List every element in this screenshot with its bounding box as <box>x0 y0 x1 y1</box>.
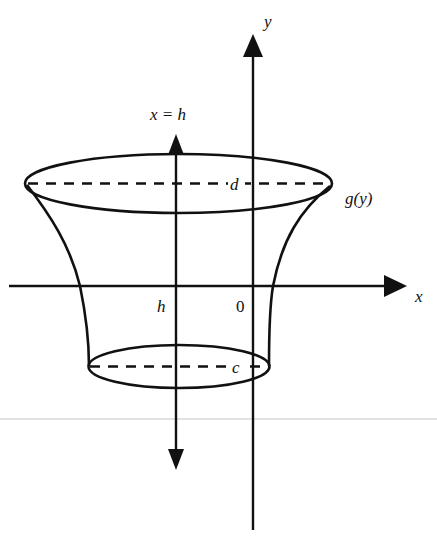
origin-label: 0 <box>236 297 245 316</box>
bottom-disk-y-equals-c <box>89 345 270 388</box>
rotation-axis-label: x = h <box>149 105 186 124</box>
rotation-axis-down-arrow-icon <box>168 449 184 470</box>
x-axis <box>9 275 407 297</box>
solid-of-revolution-diagram: y x x = h d c g(y) h 0 <box>0 0 437 539</box>
y-axis-label: y <box>262 12 272 31</box>
rotation-axis-up-arrow-icon <box>168 134 184 155</box>
curve-label-g-of-y: g(y) <box>345 189 373 208</box>
h-tick-label: h <box>157 297 166 316</box>
upper-bound-label-d: d <box>230 175 239 194</box>
x-axis-arrow-icon <box>384 275 407 297</box>
lower-bound-label-c: c <box>232 358 240 377</box>
y-axis <box>243 34 263 530</box>
right-profile-curve <box>269 186 330 366</box>
y-axis-arrow-icon <box>243 34 263 57</box>
x-axis-label: x <box>414 287 423 306</box>
top-disk-y-equals-d <box>25 154 332 213</box>
left-profile-curve <box>27 185 89 366</box>
